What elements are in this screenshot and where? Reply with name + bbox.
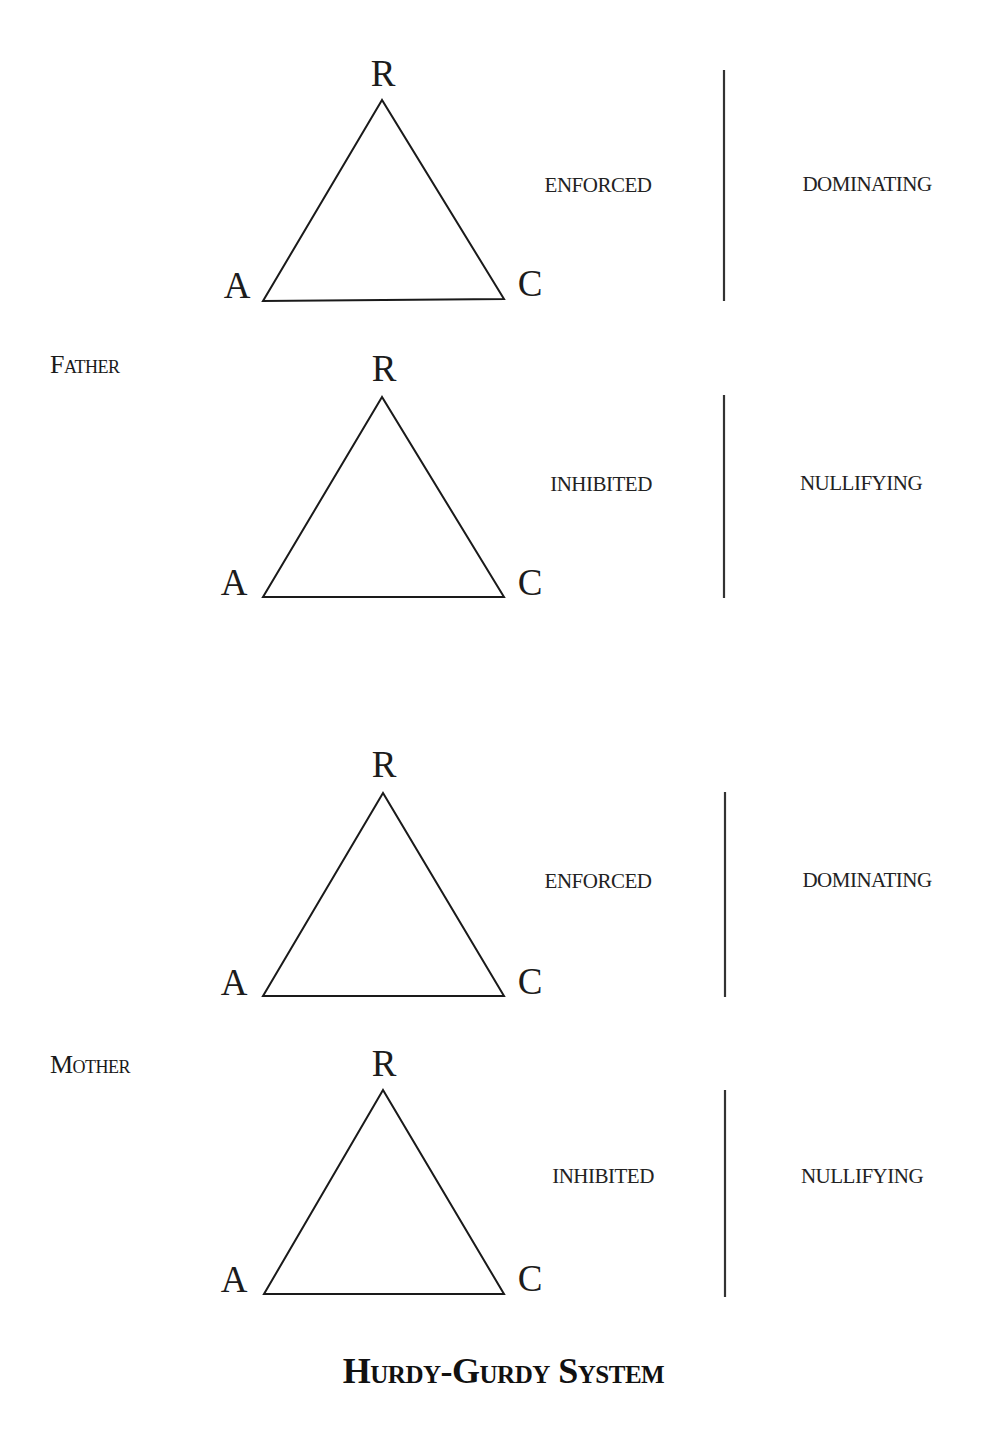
triangle-father-2: [263, 397, 504, 597]
parent-label-father: Father: [50, 350, 119, 380]
state-left-label: ENFORCED: [545, 869, 652, 894]
state-right-label: NULLIFYING: [800, 471, 922, 496]
vertex-r: R: [372, 1045, 397, 1082]
vertex-c: C: [518, 963, 543, 1000]
triangle-father-1: [263, 100, 504, 301]
vertex-r: R: [372, 350, 397, 387]
vertex-c: C: [518, 564, 543, 601]
state-right-label: DOMINATING: [802, 868, 931, 893]
parent-label-mother: Mother: [50, 1050, 130, 1080]
vertex-r: R: [371, 55, 396, 92]
triangle-mother-2: [264, 1090, 504, 1294]
state-right-label: NULLIFYING: [801, 1164, 923, 1189]
diagram-canvas: [0, 0, 1007, 1436]
vertex-a: A: [221, 1261, 248, 1298]
state-right-label: DOMINATING: [802, 172, 931, 197]
state-left-label: INHIBITED: [552, 1164, 654, 1189]
vertex-c: C: [518, 1260, 543, 1297]
vertex-c: C: [518, 265, 543, 302]
vertex-r: R: [372, 746, 397, 783]
state-left-label: INHIBITED: [550, 472, 652, 497]
vertex-a: A: [224, 267, 251, 304]
vertex-a: A: [221, 564, 248, 601]
figure-title: Hurdy-Gurdy System: [0, 1350, 1007, 1392]
triangle-mother-1: [263, 793, 504, 996]
state-left-label: ENFORCED: [545, 173, 652, 198]
vertex-a: A: [221, 964, 248, 1001]
